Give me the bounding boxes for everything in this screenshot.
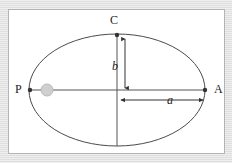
focus-star-glyph bbox=[41, 84, 53, 96]
label-semi-major-axis: a bbox=[167, 94, 173, 106]
figure-root: C P A b a bbox=[0, 0, 232, 163]
point-marker-P bbox=[28, 88, 32, 92]
label-point-a: A bbox=[214, 83, 223, 95]
label-point-c: C bbox=[110, 14, 118, 26]
label-semi-minor-axis: b bbox=[112, 60, 118, 72]
point-marker-A bbox=[203, 88, 207, 92]
label-point-p: P bbox=[15, 83, 22, 95]
ellipse-diagram-svg bbox=[9, 10, 225, 154]
diagram-panel: C P A b a bbox=[8, 9, 225, 154]
point-marker-C bbox=[115, 33, 119, 37]
